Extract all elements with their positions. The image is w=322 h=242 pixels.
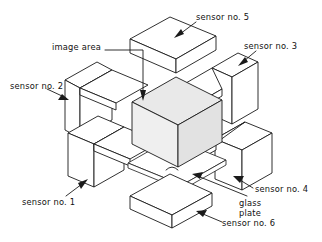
sensor-1-label: sensor no. 1 xyxy=(22,197,75,207)
sensor-arrangement-diagram: image area sensor no. 5 sensor no. 3 sen… xyxy=(0,0,322,242)
glass-plate-label-line1: glass xyxy=(239,198,261,208)
image-area-label: image area xyxy=(52,42,101,52)
sensor-5-label: sensor no. 5 xyxy=(196,12,249,22)
sensor-1-leader xyxy=(66,179,88,196)
diagram-canvas: image area sensor no. 5 sensor no. 3 sen… xyxy=(0,0,322,242)
sensor-2-label: sensor no. 2 xyxy=(10,81,63,91)
glass-plate-label-line2: plate xyxy=(239,208,261,218)
sensor-6-label: sensor no. 6 xyxy=(222,218,275,228)
sensor-6-leader-line xyxy=(203,214,222,222)
sensor-4-label: sensor no. 4 xyxy=(255,184,308,194)
sensor-6-block xyxy=(130,174,212,228)
sensor-4-block xyxy=(215,122,272,190)
sensor-3-label: sensor no. 3 xyxy=(244,41,297,51)
sensor-6-leader xyxy=(196,210,222,222)
